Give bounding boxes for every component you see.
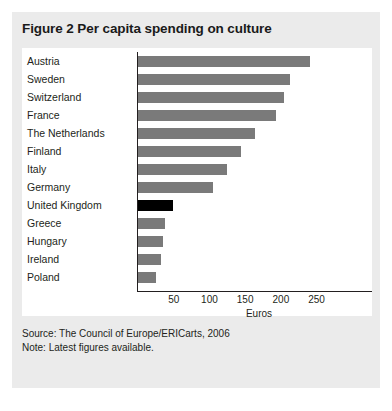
bar-category-label: Sweden <box>27 70 132 88</box>
bar <box>138 128 255 139</box>
bar-category-label: Greece <box>27 214 132 232</box>
bar-row: Ireland <box>22 250 372 268</box>
bar-category-label: Finland <box>27 142 132 160</box>
bar-row: France <box>22 106 372 124</box>
bar-category-label: Ireland <box>27 250 132 268</box>
bar-category-label: Austria <box>27 52 132 70</box>
bar-row: Greece <box>22 214 372 232</box>
bar-row: Italy <box>22 160 372 178</box>
bar <box>138 236 163 247</box>
bar-category-label: The Netherlands <box>27 124 132 142</box>
bar-row: The Netherlands <box>22 124 372 142</box>
x-axis-line <box>137 291 372 292</box>
source-text: Source: The Council of Europe/ERICarts, … <box>22 327 370 341</box>
bar-category-label: Switzerland <box>27 88 132 106</box>
page-title: Figure 2 Per capita spending on culture <box>22 21 272 36</box>
bar <box>138 218 165 229</box>
note-text: Note: Latest figures available. <box>22 341 370 355</box>
bar-chart: AustriaSwedenSwitzerlandFranceThe Nether… <box>22 48 372 316</box>
bar-category-label: France <box>27 106 132 124</box>
bar <box>138 146 241 157</box>
bar <box>138 56 310 67</box>
bar-category-label: Poland <box>27 268 132 286</box>
chart-plot-area: AustriaSwedenSwitzerlandFranceThe Nether… <box>22 48 372 316</box>
x-axis-tick-label: 250 <box>308 294 325 305</box>
bar-category-label: Italy <box>27 160 132 178</box>
bar <box>138 164 227 175</box>
bar-row: Switzerland <box>22 88 372 106</box>
bar <box>138 254 161 265</box>
bar-category-label: Hungary <box>27 232 132 250</box>
bar-row: Hungary <box>22 232 372 250</box>
bar-category-label: Germany <box>27 178 132 196</box>
bar-row: Germany <box>22 178 372 196</box>
bar <box>138 200 173 211</box>
figure-footer: Source: The Council of Europe/ERICarts, … <box>22 327 370 355</box>
bar-row: Finland <box>22 142 372 160</box>
x-axis-tick-label: 50 <box>168 294 179 305</box>
bar <box>138 272 156 283</box>
bar <box>138 74 290 85</box>
bar <box>138 110 276 121</box>
x-axis-tick-label: 200 <box>273 294 290 305</box>
bar-row: Austria <box>22 52 372 70</box>
bar <box>138 92 284 103</box>
bar-category-label: United Kingdom <box>27 196 132 214</box>
x-axis-title: Euros <box>246 308 272 319</box>
bar <box>138 182 213 193</box>
bar-row: Poland <box>22 268 372 286</box>
bar-row: Sweden <box>22 70 372 88</box>
figure-panel: Figure 2 Per capita spending on culture … <box>12 12 380 388</box>
x-axis-tick-label: 100 <box>201 294 218 305</box>
bar-row: United Kingdom <box>22 196 372 214</box>
x-axis-tick-label: 150 <box>237 294 254 305</box>
